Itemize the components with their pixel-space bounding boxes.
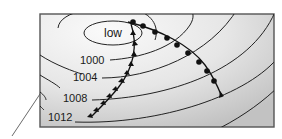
isobar-label-1012: 1012 — [48, 111, 72, 123]
isobar-label-1000: 1000 — [80, 54, 104, 66]
weather-map-diagram: low 1000 1004 1008 1012 — [0, 0, 282, 139]
isobar-label-1004: 1004 — [73, 71, 97, 83]
isobar-label-1008: 1008 — [63, 92, 87, 104]
low-label: low — [104, 26, 122, 40]
pointer-line — [12, 88, 44, 136]
